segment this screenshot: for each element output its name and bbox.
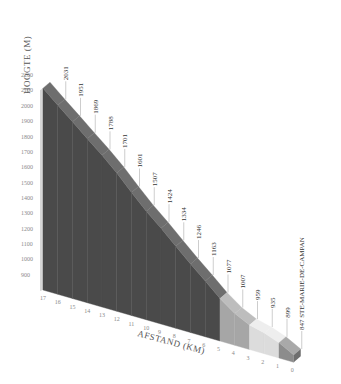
profile-segment-front bbox=[73, 122, 88, 303]
x-tick-label: 17 bbox=[40, 295, 46, 301]
x-tick-label: 12 bbox=[114, 316, 120, 322]
elevation-label: 1007 bbox=[239, 274, 247, 289]
profile-segment-front bbox=[58, 105, 73, 298]
y-tick-label: 1300 bbox=[21, 210, 33, 216]
profile-segment-front bbox=[146, 211, 161, 324]
elevation-label: 1788 bbox=[107, 116, 115, 131]
x-tick-label: 13 bbox=[99, 312, 105, 318]
elevation-label: 959 bbox=[254, 289, 262, 300]
profile-segments bbox=[43, 82, 301, 362]
x-tick-label: 16 bbox=[55, 299, 61, 305]
profile-segment-front bbox=[132, 193, 147, 320]
elevation-label: 1077 bbox=[225, 259, 233, 274]
x-tick-label: 0 bbox=[291, 367, 294, 373]
chart-side-wall bbox=[40, 88, 43, 291]
elevation-label: 2031 bbox=[62, 66, 70, 81]
y-tick-label: 2000 bbox=[21, 103, 33, 109]
elevation-label: 1507 bbox=[151, 172, 159, 187]
x-tick-label: 15 bbox=[70, 304, 76, 310]
elevation-profile-chart: 9001000110012001300140015001600170018001… bbox=[0, 0, 341, 384]
x-tick-label: 14 bbox=[84, 308, 90, 314]
y-tick-label: 1800 bbox=[21, 134, 33, 140]
x-tick-label: 11 bbox=[129, 321, 135, 327]
elevation-label: 1601 bbox=[136, 153, 144, 168]
y-tick-label: 1500 bbox=[21, 180, 33, 186]
y-axis-title: HOOGTE (M) bbox=[22, 36, 32, 94]
y-tick-label: 1600 bbox=[21, 164, 33, 170]
elevation-label: 1701 bbox=[121, 133, 129, 148]
elevation-label: 1163 bbox=[210, 242, 218, 256]
elevation-label: 899 bbox=[284, 307, 292, 318]
x-tick-label: 4 bbox=[232, 350, 235, 356]
profile-segment-front bbox=[43, 88, 58, 294]
y-tick-label: 1100 bbox=[21, 241, 33, 247]
profile-segment-front bbox=[87, 139, 102, 307]
y-tick-label: 1900 bbox=[21, 118, 33, 124]
x-tick-label: 1 bbox=[276, 363, 279, 369]
y-tick-label: 900 bbox=[21, 272, 30, 278]
y-tick-label: 1400 bbox=[21, 195, 33, 201]
elevation-label: 1424 bbox=[166, 189, 174, 204]
x-tick-label: 3 bbox=[247, 355, 250, 361]
elevation-label: 935 bbox=[269, 297, 277, 308]
elevation-label: 847 STE-MARIE-DE-CAMPAN bbox=[298, 237, 306, 330]
y-tick-label: 1200 bbox=[21, 226, 33, 232]
elevation-label: 1951 bbox=[77, 82, 85, 97]
elevation-label: 1869 bbox=[92, 99, 100, 114]
profile-segment-front bbox=[102, 155, 117, 311]
side-wall-face bbox=[40, 88, 43, 291]
x-tick-label: 5 bbox=[217, 346, 220, 352]
profile-segment-front bbox=[117, 173, 132, 316]
x-tick-label: 2 bbox=[261, 359, 264, 365]
elevation-label: 1334 bbox=[180, 207, 188, 222]
y-tick-label: 1000 bbox=[21, 256, 33, 262]
elevation-label: 1246 bbox=[195, 225, 203, 240]
y-axis-ticks: 9001000110012001300140015001600170018001… bbox=[21, 72, 33, 278]
y-tick-label: 1700 bbox=[21, 149, 33, 155]
